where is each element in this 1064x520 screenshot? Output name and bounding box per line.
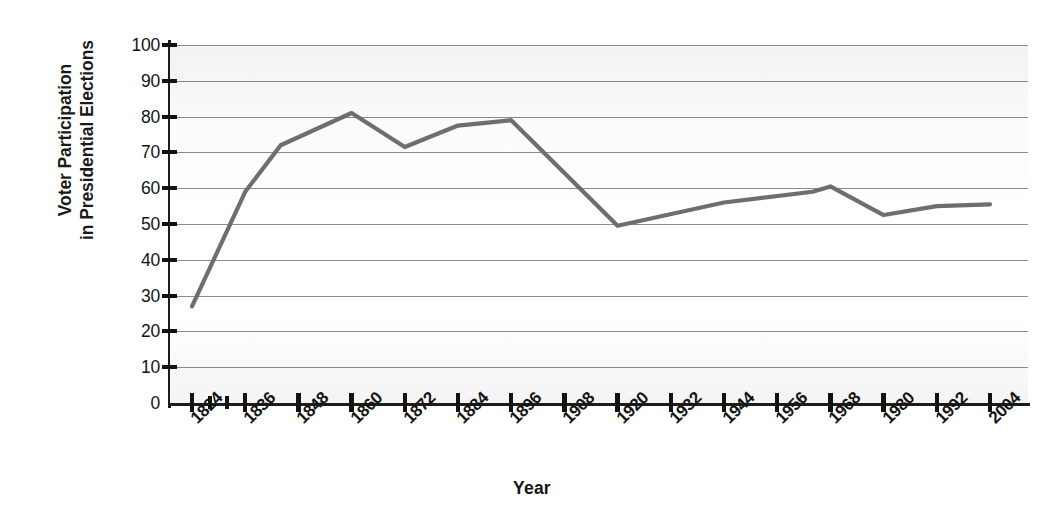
gridline [170,188,1028,189]
y-axis-tick-labels: 0102030405060708090100 [108,30,160,420]
voter-participation-line-chart: Voter Participation in Presidential Elec… [0,0,1064,520]
y-axis-title: Voter Participation in Presidential Elec… [46,0,106,290]
y-axis-title-line-2: in Presidential Elections [76,40,98,240]
y-axis-tick-label: 30 [108,285,160,306]
gridline [170,296,1028,297]
y-axis-tick-label: 90 [108,70,160,91]
y-axis-tick-label: 20 [108,321,160,342]
y-axis-tick-mark [162,186,177,190]
gridline [170,152,1028,153]
y-axis-tick-label: 50 [108,214,160,235]
gridline [170,224,1028,225]
gridline [170,260,1028,261]
y-axis-tick-label: 100 [108,35,160,56]
y-axis-tick-label: 80 [108,106,160,127]
y-axis-tick-mark [162,222,177,226]
y-axis-title-line-1: Voter Participation [54,64,76,216]
x-axis-minor-tick-mark [208,396,212,409]
y-axis-tick-mark [162,150,177,154]
y-axis-tick-label: 60 [108,178,160,199]
y-axis-tick-label: 70 [108,142,160,163]
y-axis-tick-label: 0 [108,393,160,414]
y-axis-tick-label: 40 [108,249,160,270]
gridline [170,45,1028,46]
gridline [170,81,1028,82]
x-axis-minor-tick-mark [225,396,229,409]
y-axis-tick-mark [162,294,177,298]
y-axis-tick-mark [162,365,177,369]
y-axis-tick-label: 10 [108,357,160,378]
y-axis-tick-mark [162,115,177,119]
gridline [170,331,1028,332]
y-axis-tick-mark [162,258,177,262]
gridline [170,117,1028,118]
y-axis-tick-mark [162,43,177,47]
gridline [170,367,1028,368]
plot-area [170,45,1028,403]
y-axis-tick-mark [162,329,177,333]
x-axis-title: Year [0,478,1064,499]
y-axis-tick-mark [162,79,177,83]
